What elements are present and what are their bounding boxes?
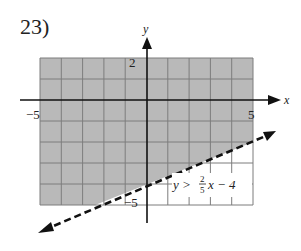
y-axis-arrow-icon <box>142 37 152 49</box>
x-axis-arrow-icon <box>268 95 281 105</box>
x-axis-label: x <box>283 93 290 107</box>
y-tick-neg5: −5 <box>124 195 138 210</box>
inequality-lhs: y > <box>171 177 191 192</box>
inequality-graph: y x 2 −5 5 −5 y > 2 5 x − 4 <box>0 0 301 251</box>
line-arrow-right-icon <box>263 131 276 141</box>
inequality-frac-num: 2 <box>200 174 205 184</box>
inequality-rhs: x − 4 <box>207 177 236 192</box>
y-tick-2: 2 <box>129 55 136 70</box>
x-tick-5: 5 <box>248 107 255 122</box>
y-axis-label: y <box>142 22 149 36</box>
inequality-frac-den: 5 <box>200 185 205 195</box>
x-tick-neg5: −5 <box>26 107 40 122</box>
line-arrow-left-icon <box>38 222 54 233</box>
